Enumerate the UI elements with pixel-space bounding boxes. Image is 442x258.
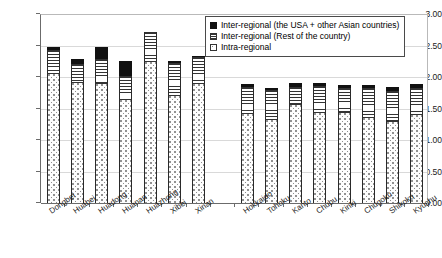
- bar-segment-inter-regional-domestic: [95, 59, 108, 83]
- horizontal-line-swatch-icon: [210, 33, 217, 40]
- bar-column[interactable]: [265, 88, 278, 203]
- bar-column[interactable]: [362, 85, 375, 203]
- bar-segment-inter-regional-domestic: [71, 64, 84, 82]
- bar-segment-intra-regional: [144, 61, 157, 203]
- bar-segment-inter-regional-domestic: [289, 87, 302, 104]
- legend-item: Inter-regional (Rest of the country): [210, 31, 399, 42]
- legend-item-label: Intra-regional: [221, 43, 271, 52]
- bar-column[interactable]: [71, 59, 84, 203]
- bar-segment-intra-regional: [362, 117, 375, 203]
- legend-item-label: Inter-regional (Rest of the country): [221, 32, 350, 41]
- legend-item: Intra-regional: [210, 42, 399, 53]
- legend-item: Inter-regional (the USA + other Asian co…: [210, 20, 399, 31]
- bar-column[interactable]: [313, 83, 326, 203]
- bar-segment-inter-regional-domestic: [386, 91, 399, 121]
- dotted-swatch-icon: [210, 44, 217, 51]
- chart-legend: Inter-regional (the USA + other Asian co…: [205, 16, 405, 57]
- bar-column[interactable]: [47, 47, 60, 203]
- bar-column[interactable]: [241, 84, 254, 203]
- bar-segment-inter-regional-domestic: [241, 87, 254, 113]
- bar-column[interactable]: [338, 85, 351, 203]
- bar-segment-inter-regional-domestic: [362, 88, 375, 116]
- bar-segment-inter-regional-domestic: [168, 63, 181, 95]
- x-axis-tick-mark: [234, 203, 235, 207]
- bar-segment-inter-regional-domestic: [144, 32, 157, 61]
- bar-segment-intra-regional: [313, 112, 326, 203]
- legend-item-label: Inter-regional (the USA + other Asian co…: [221, 21, 399, 30]
- bar-column[interactable]: [386, 87, 399, 203]
- bar-column[interactable]: [410, 84, 423, 203]
- bar-segment-intra-regional: [192, 83, 205, 203]
- bar-segment-inter-regional-domestic: [192, 57, 205, 82]
- bar-segment-intra-regional: [289, 104, 302, 203]
- bar-segment-inter-regional-domestic: [410, 88, 423, 114]
- bar-column[interactable]: [192, 56, 205, 203]
- bar-column[interactable]: [144, 32, 157, 203]
- bar-segment-inter-regional-domestic: [338, 88, 351, 112]
- bar-column[interactable]: [95, 47, 108, 203]
- bar-segment-inter-regional-domestic: [47, 50, 60, 73]
- bar-segment-intra-regional: [47, 73, 60, 203]
- bar-segment-intra-regional: [95, 83, 108, 203]
- bar-segment-inter-regional-international: [95, 47, 108, 59]
- bar-segment-inter-regional-domestic: [313, 86, 326, 112]
- bar-segment-intra-regional: [241, 113, 254, 203]
- stacked-bar-chart: 3.002.502.001.501.000.500.00 DongbeiHuab…: [0, 0, 442, 258]
- bar-segment-inter-regional-domestic: [265, 90, 278, 119]
- solid-black-swatch-icon: [210, 22, 217, 29]
- bar-segment-intra-regional: [410, 114, 423, 203]
- bar-segment-intra-regional: [71, 82, 84, 203]
- bar-segment-intra-regional: [119, 99, 132, 203]
- bar-column[interactable]: [119, 61, 132, 203]
- bar-column[interactable]: [289, 83, 302, 203]
- bar-segment-intra-regional: [338, 112, 351, 203]
- bar-segment-inter-regional-international: [119, 61, 132, 77]
- bar-column[interactable]: [168, 61, 181, 203]
- bar-segment-inter-regional-domestic: [119, 76, 132, 99]
